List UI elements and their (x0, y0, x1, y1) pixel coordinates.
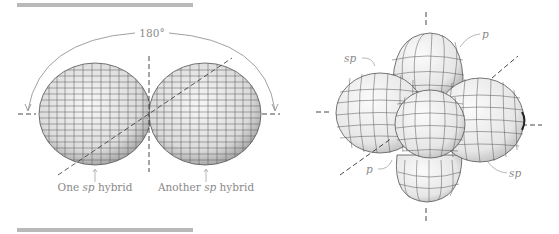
left-figure: 180° One sp hybrid Another sp h (18, 27, 280, 193)
right-figure: p sp p sp (316, 12, 542, 222)
label-sp-right: sp (509, 167, 521, 179)
p-orbital-front-lobe (395, 90, 465, 158)
angle-label: 180° (139, 27, 164, 39)
label-p-bottom: p (366, 163, 373, 175)
label-p-top: p (482, 28, 489, 40)
y-axis-back (492, 56, 518, 78)
label-one-sp-hybrid: One sp hybrid (58, 181, 133, 193)
sp-hybrid-lobe-right (149, 63, 261, 165)
sp-hybrid-diagram: 180° One sp hybrid Another sp h (0, 0, 559, 234)
label-sp-left: sp (344, 52, 356, 64)
p-orbital-bottom-lobe (396, 155, 462, 202)
label-another-sp-hybrid: Another sp hybrid (157, 181, 254, 193)
